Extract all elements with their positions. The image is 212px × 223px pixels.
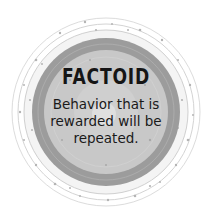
factoid-text: FACTOID Behavior that is rewarded will b… [0, 0, 212, 223]
factoid-line-2: rewarded will be [40, 113, 172, 130]
factoid-line-3: repeated. [40, 130, 172, 147]
factoid-title: FACTOID [23, 64, 188, 89]
factoid-line-1: Behavior that is [40, 96, 172, 113]
factoid-body: Behavior that is rewarded will be repeat… [40, 96, 172, 147]
